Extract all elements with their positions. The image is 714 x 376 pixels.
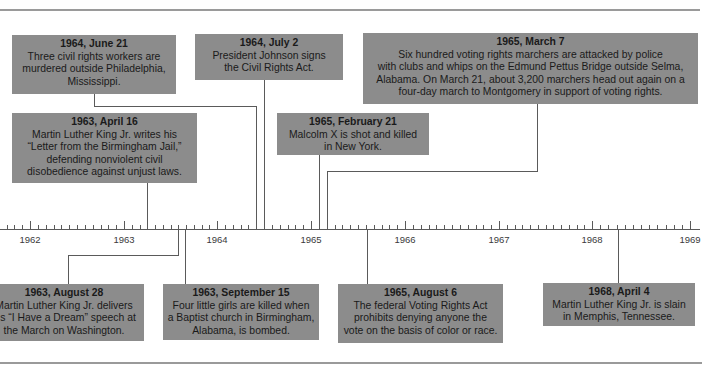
event-description: Malcolm X is shot and killed in New York… [277,129,429,154]
event-description: Martin Luther King Jr. delivers his “I H… [0,300,144,338]
event-1965-02-21: 1965, February 21 Malcolm X is shot and … [277,113,429,155]
event-date: 1965, March 7 [363,36,698,49]
event-date: 1963, April 16 [12,116,197,129]
year-label-1969: 1969 [679,234,700,245]
event-1963-04-16: 1963, April 16 Martin Luther King Jr. wr… [12,113,197,183]
event-date: 1968, April 4 [543,286,695,299]
year-label-1962: 1962 [19,234,40,245]
year-label-1966: 1966 [394,234,415,245]
year-label-1967: 1967 [488,234,509,245]
event-1964-06-21: 1964, June 21 Three civil rights workers… [12,35,176,94]
event-1963-08-28: 1963, August 28 Martin Luther King Jr. d… [0,284,144,341]
event-description: Four little girls are killed when a Bapt… [163,300,319,338]
event-date: 1964, July 2 [195,37,343,50]
event-1963-09-15: 1963, September 15 Four little girls are… [163,284,319,340]
event-description: Six hundred voting rights marchers are a… [363,49,698,99]
year-label-1964: 1964 [206,234,227,245]
event-description: President Johnson signs the Civil Rights… [195,50,343,75]
event-description: Martin Luther King Jr. writes his “Lette… [12,129,197,179]
event-date: 1963, August 28 [0,287,144,300]
year-label-1965: 1965 [300,234,321,245]
event-date: 1965, February 21 [277,116,429,129]
year-label-1963: 1963 [113,234,134,245]
event-1968-04-04: 1968, April 4 Martin Luther King Jr. is … [543,283,695,326]
event-description: Three civil rights workers are murdered … [12,51,176,89]
event-1965-08-06: 1965, August 6 The federal Voting Rights… [338,284,503,343]
event-1964-07-02: 1964, July 2 President Johnson signs the… [195,34,343,80]
event-date: 1964, June 21 [12,38,176,51]
event-description: Martin Luther King Jr. is slain in Memph… [543,299,695,324]
year-label-1968: 1968 [581,234,602,245]
event-description: The federal Voting Rights Act prohibits … [338,300,503,338]
event-date: 1963, September 15 [163,287,319,300]
event-1965-03-07: 1965, March 7 Six hundred voting rights … [363,33,698,104]
event-date: 1965, August 6 [338,287,503,300]
